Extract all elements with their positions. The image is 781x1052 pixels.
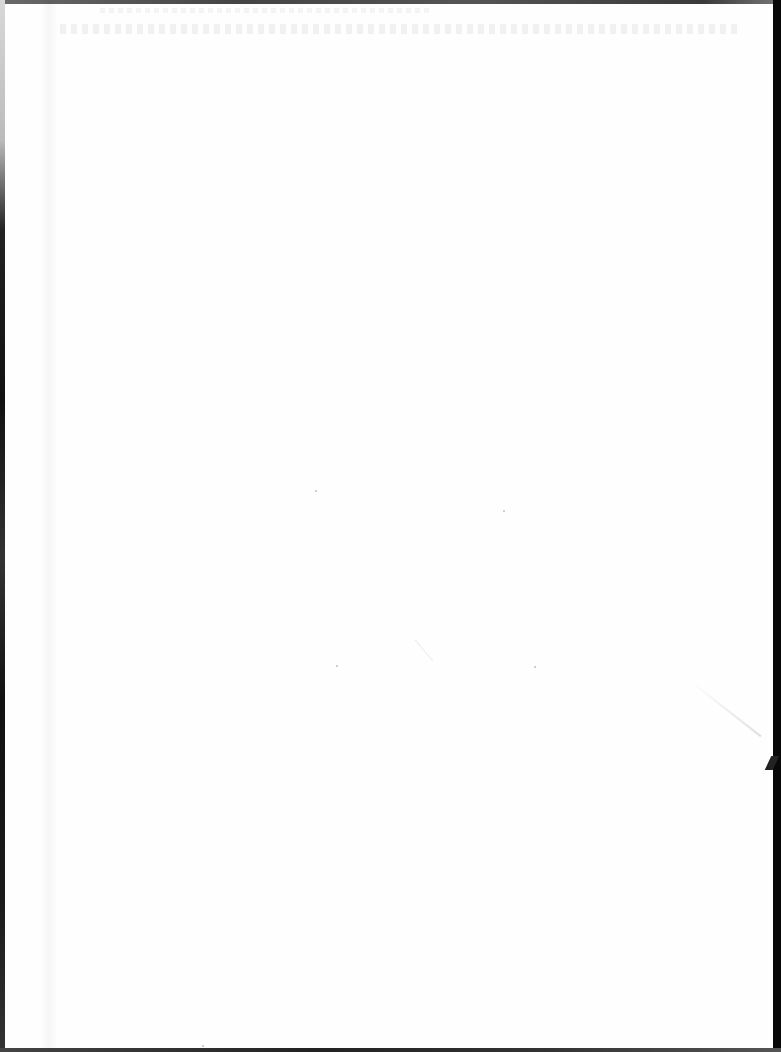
scanned-page [0,0,781,1052]
paper-speck [315,490,317,492]
scanner-edge-top [0,0,781,4]
paper-speck [336,665,338,667]
scanner-edge-bottom [0,1048,781,1052]
scanner-edge-right [773,0,781,1052]
paper-crease [689,680,761,737]
bleed-through-text [100,8,430,13]
bleed-through-text [60,24,740,34]
paper-speck [534,666,536,668]
paper-speck [415,639,434,661]
paper-speck [503,510,505,512]
page-shadow [40,0,58,1052]
scanner-edge-left [0,0,5,1052]
paper-speck [202,1045,204,1047]
